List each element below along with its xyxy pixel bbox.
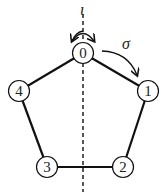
edge-4-0	[19, 53, 83, 91]
node-3-label: 3	[43, 159, 51, 175]
edge-3-4	[19, 91, 47, 167]
node-1-label: 1	[144, 83, 152, 99]
rotation-arrow-icon	[102, 51, 137, 75]
node-2-label: 2	[119, 159, 127, 175]
node-2: 2	[113, 157, 134, 178]
pentagon-diagram: ι σ 0 1 2 3 4	[0, 0, 167, 195]
node-0-label: 0	[79, 45, 87, 61]
node-0: 0	[73, 43, 94, 64]
node-1: 1	[138, 81, 159, 102]
node-3: 3	[37, 157, 58, 178]
node-4: 4	[9, 81, 30, 102]
edge-0-1	[83, 53, 148, 91]
iota-label: ι	[80, 1, 84, 18]
sigma-label: σ	[122, 35, 131, 52]
edge-1-2	[123, 91, 148, 167]
node-4-label: 4	[15, 83, 23, 99]
